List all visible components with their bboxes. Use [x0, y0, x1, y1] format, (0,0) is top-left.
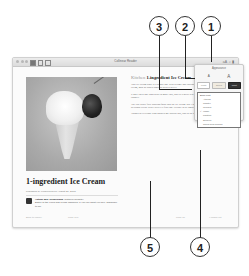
font-menu: Book Font Athelas Charter Georgia ✓Iowan…: [197, 92, 241, 128]
callout-5-line: [150, 181, 151, 238]
chocolate-strawberry: [82, 94, 102, 118]
pages-left: 4 pages left: [209, 216, 221, 219]
theme-night-button[interactable]: Night: [228, 82, 241, 89]
window-title: Collinear Reader: [13, 59, 238, 63]
right-page-number: Page 18: [176, 216, 185, 219]
callout-3-line: [159, 36, 160, 90]
spoon: [94, 77, 116, 84]
callout-1-line: [211, 36, 212, 62]
search-icon[interactable]: ⌕: [229, 60, 231, 64]
back-to-library-link[interactable]: Back to Library: [26, 216, 42, 219]
appearance-popover: Appearance A A White Sepia Night Book Fo…: [194, 64, 244, 121]
left-page-number: Page 168: [68, 216, 78, 219]
callout-1: 1: [201, 16, 221, 36]
callout-2-leader: [185, 78, 195, 79]
callout-3: 3: [149, 16, 169, 36]
whipped-cream: [46, 91, 84, 125]
byline: Published by ecoblivious on August 27, 2…: [26, 190, 118, 196]
callout-2: 2: [175, 16, 195, 36]
appearance-icon[interactable]: aA: [223, 60, 227, 64]
ice-cream-photo: [26, 77, 117, 171]
chapter-category: Kitchen: [131, 75, 145, 80]
author-avatar: [26, 198, 32, 204]
article-title: 1-ingredient Ice Cream: [26, 177, 118, 186]
decrease-font-button[interactable]: A: [208, 74, 210, 79]
font-size-controls: A A: [199, 74, 239, 79]
font-option[interactable]: Times New Roman: [198, 122, 240, 126]
callout-4-line: [200, 150, 201, 238]
popover-title: Appearance: [195, 67, 243, 70]
theme-white-button[interactable]: White: [197, 82, 210, 89]
callout-2-line: [185, 36, 186, 79]
toolbar-right: aA ⌕ ▮: [223, 60, 234, 64]
callout-5: 5: [140, 237, 160, 257]
bookmark-icon[interactable]: ▮: [232, 60, 234, 64]
left-page: 1-ingredient Ice Cream Published by ecob…: [26, 77, 118, 208]
author-box: Author Bio: ecoblivious (author's websit…: [26, 198, 118, 208]
page-footer: Back to Library Page 168 Page 18 4 pages…: [13, 216, 238, 222]
callout-4: 4: [190, 237, 210, 257]
theme-selector: White Sepia Night: [197, 82, 241, 89]
reader-window: Collinear Reader aA ⌕ ▮ 1-ingredient Ice…: [12, 57, 239, 228]
increase-font-button[interactable]: A: [227, 74, 230, 79]
theme-sepia-button[interactable]: Sepia: [212, 82, 225, 89]
author-bio: Editor of the Food and Living channels. …: [35, 201, 117, 207]
callout-3-leader: [159, 89, 192, 90]
